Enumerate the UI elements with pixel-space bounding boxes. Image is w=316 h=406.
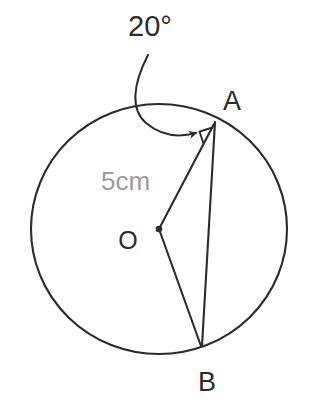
angle-label: 20° [128,10,172,42]
circle-diagram-canvas: 20° 5cm O A B [0,0,316,406]
point-label-o: O [118,226,137,254]
radius-label: 5cm [101,166,150,196]
point-label-a: A [223,86,241,116]
centre-point-dot [156,226,163,233]
geometry-diagram: 20° 5cm O A B [0,0,316,406]
diagram-background [0,0,316,406]
point-label-b: B [198,367,216,397]
